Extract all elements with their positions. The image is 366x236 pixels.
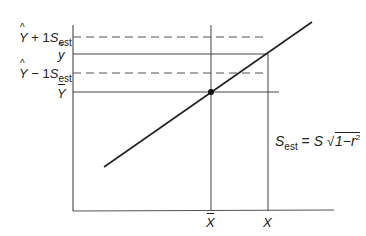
sqrt-radicand: 1−r2 xyxy=(335,132,360,148)
label-x: X xyxy=(263,216,272,229)
label-y-hat-minus-sest: Y − 1Sest xyxy=(19,67,72,84)
sqrt-symbol: √ xyxy=(327,134,334,149)
formula-sest: Sest = S √1−r2 xyxy=(275,132,360,152)
x-axis xyxy=(73,210,334,211)
mean-point xyxy=(208,89,214,95)
label-y-bar: Y xyxy=(57,87,66,100)
label-x-bar: X xyxy=(206,216,215,229)
label-y-tilde: y xyxy=(58,48,65,61)
